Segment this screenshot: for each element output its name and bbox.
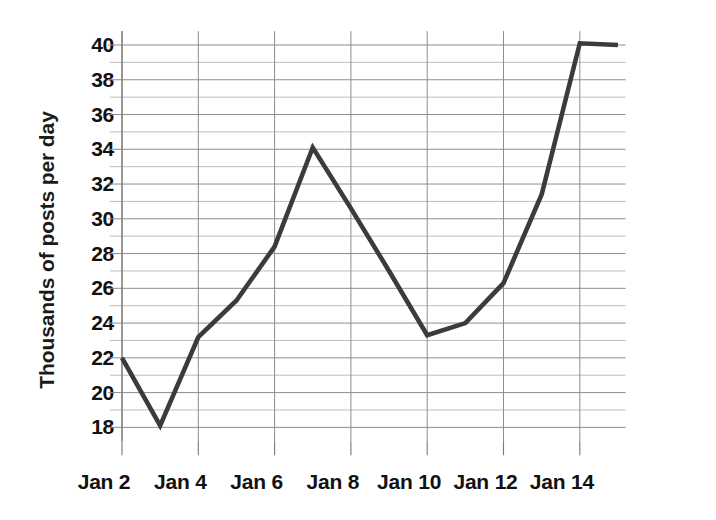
plot-area: [0, 0, 716, 520]
data-series-line: [122, 43, 618, 425]
x-tick-label: Jan 6: [230, 470, 283, 494]
x-tick-label: Jan 12: [453, 470, 517, 494]
line-chart-svg: [0, 0, 716, 520]
x-tick-label: Jan 14: [530, 470, 594, 494]
chart-figure: Thousands of posts per day 4038363432302…: [0, 0, 716, 520]
x-tick-label: Jan 2: [78, 470, 131, 494]
x-axis-tickmarks: [122, 441, 580, 455]
x-tick-label: Jan 8: [307, 470, 360, 494]
x-tick-label: Jan 10: [377, 470, 441, 494]
x-tick-label: Jan 4: [154, 470, 207, 494]
